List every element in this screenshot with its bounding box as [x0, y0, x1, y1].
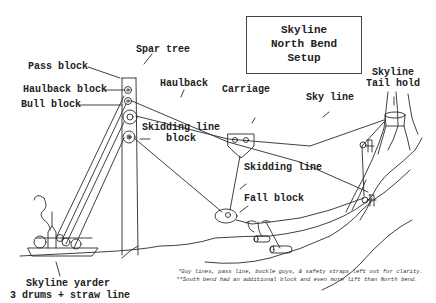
- bull-block-icon: [123, 110, 137, 124]
- label-skidding-line-block-2: block: [166, 133, 196, 145]
- title-line-2: North Bend: [247, 37, 361, 51]
- tail-connector-line: [362, 122, 384, 146]
- label-skidding-line: Skidding line: [244, 162, 322, 174]
- label-carriage: Carriage: [222, 84, 270, 96]
- label-haulback: Haulback: [160, 78, 208, 90]
- title-line-3: Setup: [247, 51, 361, 65]
- label-fall-block: Fall block: [244, 193, 304, 205]
- carriage-drop-line: [230, 156, 240, 210]
- label-yarder-1: Skyline yarder: [18, 278, 118, 290]
- spar-blocks: [123, 87, 137, 144]
- haulback-line: [132, 101, 368, 192]
- label-yarder-2: 3 drums + straw line: [10, 290, 130, 302]
- haulback-block-icon: [125, 98, 132, 105]
- label-haulback-block: Haulback block: [23, 84, 107, 96]
- skyline-setup-drawing: [0, 0, 436, 303]
- footnote-2: **South bend had an additional block and…: [176, 276, 418, 283]
- label-skyline-tail-hold-2: Tail hold: [362, 78, 424, 90]
- footnote-1: *Guy lines, pass line, buckle guys, & sa…: [178, 268, 423, 275]
- skyline-yarder-icon: [28, 195, 98, 256]
- diagram-canvas: Skyline North Bend Setup Spar tree Pass …: [0, 0, 436, 303]
- spar-tree: [122, 78, 138, 258]
- label-bull-block: Bull block: [21, 99, 81, 111]
- label-pass-block: Pass block: [28, 61, 88, 73]
- log-icon: [254, 236, 270, 242]
- label-spar-tree: Spar tree: [136, 44, 190, 56]
- pass-block-icon: [125, 87, 132, 94]
- label-sky-line: Sky line: [306, 92, 354, 104]
- fall-block-icon: [215, 209, 237, 223]
- skidding-line-block-icon: [123, 131, 135, 143]
- yarder-lines: [56, 96, 126, 248]
- skidding-line-to-fall-block: [134, 138, 222, 212]
- ground-lines: [20, 92, 422, 290]
- title-box: Skyline North Bend Setup: [246, 16, 362, 74]
- title-line-1: Skyline: [247, 23, 361, 37]
